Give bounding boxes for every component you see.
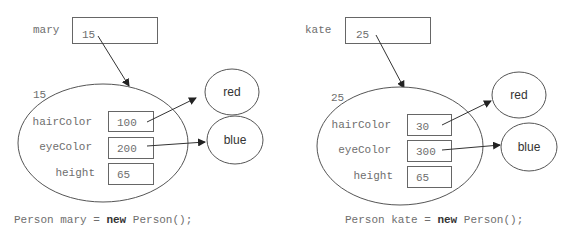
- field-box-haircolor: [408, 115, 452, 136]
- code-suffix: Person();: [126, 214, 192, 226]
- field-value-haircolor: 30: [416, 121, 429, 133]
- field-label-height: height: [353, 170, 393, 182]
- field-value-height: 65: [416, 172, 429, 184]
- field-box-height: [109, 164, 154, 185]
- string-label-blue-mary: blue: [224, 133, 247, 147]
- variable-name-kate: kate: [305, 24, 331, 36]
- kate-diagram: kate 25 25 hairColor 30 eyeColor 300 hei…: [305, 18, 557, 227]
- field-label-haircolor: hairColor: [332, 119, 391, 131]
- code-statement-kate: Person kate = new Person();: [345, 214, 523, 226]
- object-address-kate: 25: [331, 92, 344, 104]
- field-value-height: 65: [117, 169, 130, 181]
- field-box-height: [408, 167, 452, 188]
- object-reference-diagram: mary 15 15 hairColor 100 eyeColor 200 he…: [0, 0, 576, 236]
- string-label-red-mary: red: [223, 85, 240, 99]
- field-value-eyecolor: 300: [416, 146, 436, 158]
- code-suffix: Person();: [457, 214, 523, 226]
- code-keyword-new: new: [106, 214, 126, 226]
- field-value-haircolor: 100: [117, 117, 137, 129]
- field-label-eyecolor: eyeColor: [338, 144, 391, 156]
- mary-diagram: mary 15 15 hairColor 100 eyeColor 200 he…: [14, 18, 263, 227]
- reference-value-mary: 15: [82, 29, 95, 41]
- field-label-haircolor: hairColor: [33, 116, 92, 128]
- code-prefix: Person mary =: [14, 214, 106, 226]
- field-label-height: height: [55, 167, 95, 179]
- string-label-blue-kate: blue: [518, 140, 541, 154]
- code-keyword-new: new: [437, 214, 457, 226]
- field-label-eyecolor: eyeColor: [39, 141, 92, 153]
- object-address-mary: 15: [33, 89, 46, 101]
- string-label-red-kate: red: [510, 88, 527, 102]
- variable-name-mary: mary: [33, 24, 60, 36]
- field-value-eyecolor: 200: [117, 143, 137, 155]
- code-prefix: Person kate =: [345, 214, 437, 226]
- reference-value-kate: 25: [356, 29, 369, 41]
- code-statement-mary: Person mary = new Person();: [14, 214, 192, 226]
